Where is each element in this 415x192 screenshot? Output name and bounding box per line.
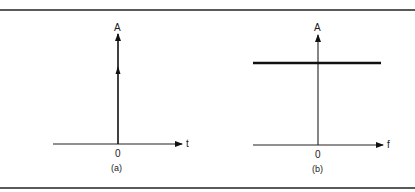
panel-b-y-axis-label: A bbox=[314, 23, 321, 33]
panel-a-origin-label: 0 bbox=[115, 149, 121, 159]
panel-b bbox=[253, 35, 383, 145]
panel-a bbox=[53, 34, 182, 144]
panel-a-impulse-mid-arrowhead bbox=[116, 66, 121, 74]
diagram-canvas bbox=[0, 0, 415, 192]
panel-b-origin-label: 0 bbox=[315, 150, 321, 160]
panel-b-caption: (b) bbox=[312, 165, 323, 174]
panel-b-x-axis-label: f bbox=[387, 140, 390, 150]
panel-a-y-axis-label: A bbox=[114, 23, 121, 33]
panel-a-caption: (a) bbox=[111, 164, 122, 173]
panel-a-x-axis-label: t bbox=[186, 139, 189, 149]
